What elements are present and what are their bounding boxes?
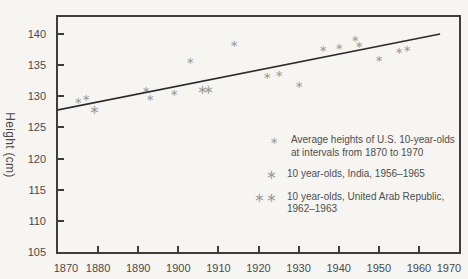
data-point-us: ∗ (263, 71, 271, 81)
y-tick (58, 189, 64, 191)
y-tick (58, 64, 64, 66)
y-tick-label: 105 (12, 246, 46, 258)
asterisk-icon: ∗ (248, 134, 278, 147)
chart-figure: Height (cm) 1051101151201251301351401870… (0, 0, 468, 279)
data-point-us: ∗ (403, 44, 411, 54)
data-point-us: ∗ (395, 46, 403, 56)
y-tick (58, 33, 64, 35)
y-tick (58, 95, 64, 97)
legend-label: Average heights of U.S. 10-year-oldsat i… (291, 134, 455, 159)
data-point-us: ∗ (295, 80, 303, 90)
x-tick-label: 1970 (429, 262, 468, 274)
data-point-us: ∗ (375, 54, 383, 64)
y-tick-label: 140 (12, 28, 46, 40)
y-tick (58, 126, 64, 128)
x-tick-label: 1950 (359, 262, 399, 274)
data-point-us: ∗ (275, 69, 283, 79)
data-point-us: ∗ (335, 42, 343, 52)
x-tick (418, 246, 420, 252)
x-tick-label: 1910 (198, 262, 238, 274)
data-point-us: ∗ (74, 96, 82, 106)
data-point-us: ∗ (170, 88, 178, 98)
y-tick (58, 220, 64, 222)
x-tick-label: 1890 (118, 262, 158, 274)
asterisk-icon: ∗ (248, 168, 278, 181)
y-tick-label: 120 (12, 153, 46, 165)
x-tick (217, 246, 219, 252)
y-tick-label: 115 (12, 184, 46, 196)
data-point-us: ∗ (230, 39, 238, 49)
x-tick (97, 246, 99, 252)
y-tick-label: 110 (12, 215, 46, 227)
data-point-india: ∗ (89, 102, 100, 115)
x-tick-label: 1930 (279, 262, 319, 274)
y-tick-label: 125 (12, 121, 46, 133)
x-tick (258, 246, 260, 252)
data-point-uar: ∗ (203, 83, 214, 96)
data-point-us: ∗ (355, 40, 363, 50)
data-point-us: ∗ (319, 44, 327, 54)
x-tick (338, 246, 340, 252)
x-tick (298, 246, 300, 252)
plot-area: 1051101151201251301351401870188018901900… (56, 15, 461, 254)
y-tick-label: 135 (12, 59, 46, 71)
x-tick-label: 1940 (319, 262, 359, 274)
data-point-us: ∗ (146, 93, 154, 103)
legend-label: 10 year-olds, India, 1956–1965 (287, 168, 425, 181)
x-tick (137, 246, 139, 252)
x-tick-label: 1880 (78, 262, 118, 274)
data-point-us: ∗ (186, 56, 194, 66)
x-tick (378, 246, 380, 252)
x-tick-label: 1920 (239, 262, 279, 274)
legend-label: 10 year-olds, United Arab Republic,1962–… (287, 191, 444, 216)
y-tick (58, 158, 64, 160)
x-tick-label: 1900 (158, 262, 198, 274)
asterisk-icon: ∗∗ (248, 191, 278, 204)
x-tick (177, 246, 179, 252)
y-tick-label: 130 (12, 90, 46, 102)
